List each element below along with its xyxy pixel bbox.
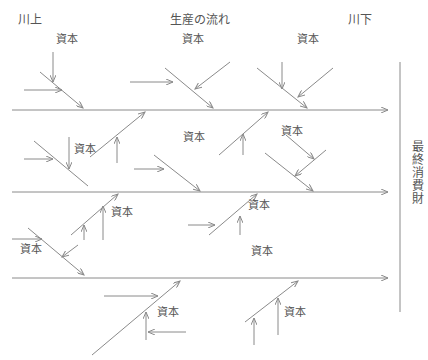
capital-label: 資本	[56, 30, 78, 46]
upstream-label: 川上	[18, 10, 42, 27]
final-goods-label: 最終消費財	[408, 140, 425, 205]
capital-label: 資本	[248, 196, 270, 212]
capital-label: 資本	[284, 303, 306, 319]
capital-label: 資本	[297, 30, 319, 46]
capital-label: 資本	[111, 203, 133, 219]
capital-label: 資本	[74, 140, 96, 156]
downstream-label: 川下	[348, 10, 372, 27]
flow-title: 生産の流れ	[170, 10, 230, 27]
capital-label: 資本	[251, 242, 273, 258]
capital-label: 資本	[182, 30, 204, 46]
capital-label: 資本	[20, 240, 42, 256]
capital-label: 資本	[281, 122, 303, 138]
capital-label: 資本	[183, 128, 205, 144]
production-flow-diagram	[0, 0, 428, 360]
capital-label: 資本	[157, 303, 179, 319]
